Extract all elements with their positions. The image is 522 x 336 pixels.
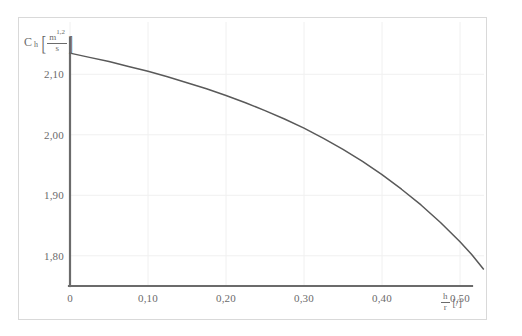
gridlines — [70, 22, 484, 285]
x-axis-ratio: h r — [441, 292, 450, 313]
plot-area: 00,100,200,300,400,50 1,801,902,002,10 — [0, 0, 522, 336]
y-axis-subscript: h — [34, 40, 38, 49]
x-tick-label: 0 — [67, 292, 73, 304]
x-tick-label: 0,40 — [372, 292, 392, 304]
bracket-open-icon: [ — [41, 34, 46, 52]
y-axis-title: Ch [ m1,2 s ] — [24, 31, 74, 54]
bracket-close-icon: ] — [69, 34, 74, 52]
x-tick-label: 0,30 — [294, 292, 314, 304]
unit-denominator: s — [47, 43, 67, 54]
x-axis-numerator: h — [442, 292, 449, 302]
unit-fraction: m1,2 s — [47, 31, 67, 54]
unit-numerator: m1,2 — [48, 31, 66, 43]
data-line-ch — [70, 53, 483, 269]
x-axis-title: h r [/] — [441, 292, 462, 313]
axis-lines — [69, 38, 472, 286]
y-axis-symbol: C — [24, 35, 32, 50]
unit-exponent: 1,2 — [56, 28, 65, 36]
figure-root: 00,100,200,300,400,50 1,801,902,002,10 C… — [0, 0, 522, 336]
y-axis-unit: [ m1,2 s ] — [40, 31, 74, 54]
x-tick-label: 0,10 — [138, 292, 158, 304]
y-tick-label: 2,10 — [36, 68, 64, 80]
y-tick-label: 2,00 — [36, 129, 64, 141]
x-tick-label: 0,20 — [216, 292, 236, 304]
chart-svg — [0, 0, 522, 336]
data-series-group — [70, 53, 483, 269]
y-tick-label: 1,80 — [36, 250, 64, 262]
x-axis-unit: [/] — [452, 297, 462, 308]
y-tick-label: 1,90 — [36, 189, 64, 201]
x-axis-denominator: r — [441, 302, 450, 313]
